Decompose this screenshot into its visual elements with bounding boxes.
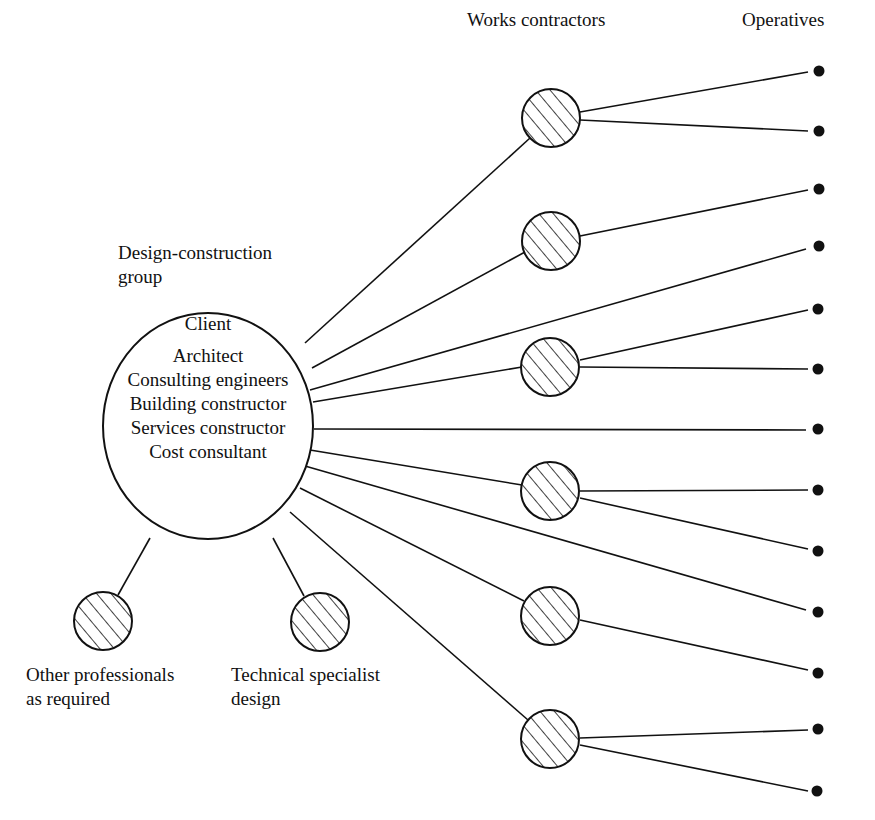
group-label-line2: group	[118, 265, 162, 289]
link-client-wc1	[305, 138, 530, 343]
operative-dot	[813, 668, 824, 679]
link-wc4-op8	[580, 490, 808, 491]
link-client-wc5	[300, 488, 524, 601]
link-client-other-professionals	[118, 538, 150, 595]
member-architect: Architect	[103, 344, 313, 368]
operative-dot	[813, 546, 824, 557]
operative-dot	[813, 424, 824, 435]
link-client-wc2	[312, 252, 525, 368]
link-wc3-op6	[580, 367, 808, 369]
works-contractors-header: Works contractors	[467, 8, 605, 32]
link-client-op7	[314, 429, 806, 430]
operative-dot	[813, 607, 824, 618]
works-contractor-node	[521, 587, 579, 645]
group-label-line1: Design-construction	[118, 241, 272, 265]
operative-dot	[813, 485, 824, 496]
member-cost-consultant: Cost consultant	[103, 440, 313, 464]
member-consulting-engineers: Consulting engineers	[103, 368, 313, 392]
operatives-header: Operatives	[742, 8, 824, 32]
link-wc5-op11	[580, 620, 808, 670]
link-wc2-op3	[580, 190, 808, 236]
link-wc4-op9	[580, 498, 808, 549]
link-wc6-op13	[580, 745, 808, 791]
link-wc6-op12	[580, 730, 808, 738]
client-circle-text: Client Architect Consulting engineers Bu…	[103, 312, 313, 464]
works-contractor-node	[521, 710, 579, 768]
operative-dot	[814, 66, 825, 77]
member-building-constructor: Building constructor	[103, 392, 313, 416]
operative-dot	[813, 724, 824, 735]
technical-specialist-node	[291, 593, 349, 651]
works-contractor-node	[522, 89, 580, 147]
link-client-wc4	[310, 450, 522, 485]
operative-dot	[814, 241, 825, 252]
operative-dot	[813, 364, 824, 375]
client-title: Client	[103, 312, 313, 336]
operative-dot	[814, 184, 825, 195]
link-wc1-op1	[580, 72, 808, 112]
works-contractor-node	[521, 462, 579, 520]
other-professionals-label-line2: as required	[26, 687, 110, 711]
member-services-constructor: Services constructor	[103, 416, 313, 440]
link-client-wc3	[313, 367, 522, 402]
works-contractor-node	[522, 212, 580, 270]
other-professionals-node	[74, 592, 132, 650]
operative-dot	[814, 126, 825, 137]
technical-specialist-label-line2: design	[231, 687, 281, 711]
link-wc3-op5	[580, 310, 808, 360]
operative-dot	[813, 304, 824, 315]
technical-specialist-label-line1: Technical specialist	[231, 663, 380, 687]
operative-dot	[812, 786, 823, 797]
operative-nodes	[812, 66, 825, 797]
link-client-technical-specialist	[273, 538, 304, 596]
link-wc1-op2	[580, 120, 808, 131]
works-contractor-nodes	[521, 89, 580, 768]
other-professionals-label-line1: Other professionals	[26, 663, 174, 687]
works-contractor-node	[521, 338, 579, 396]
